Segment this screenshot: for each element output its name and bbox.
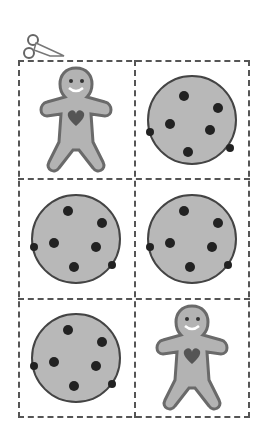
cut-out-grid	[18, 60, 250, 418]
cookie-icon	[28, 310, 124, 406]
cookie-icon	[28, 191, 124, 287]
card-gingerbread-man	[18, 60, 134, 179]
card-cookie	[18, 179, 134, 298]
scissors-icon	[20, 32, 68, 60]
card-cookie	[134, 60, 250, 179]
cookie-icon	[144, 191, 240, 287]
card-cookie	[134, 179, 250, 298]
card-cookie	[18, 298, 134, 417]
cookie-icon	[144, 72, 240, 168]
gingerbread-man-icon	[147, 302, 237, 414]
card-gingerbread-man	[134, 298, 250, 417]
gingerbread-man-icon	[31, 64, 121, 176]
